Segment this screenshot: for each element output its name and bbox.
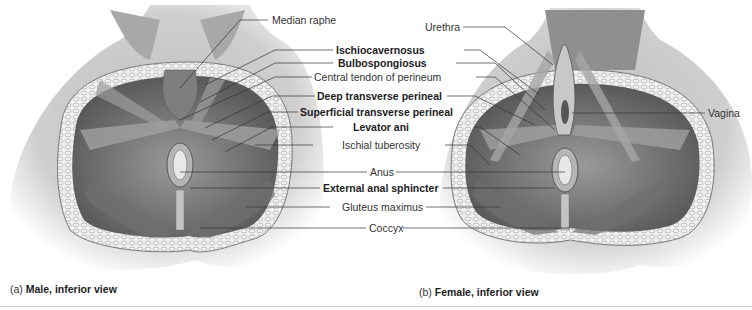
label-median-raphe: Median raphe (272, 14, 336, 26)
label-coccyx: Coccyx (369, 222, 403, 234)
caption-female-title: Female, inferior view (435, 286, 539, 298)
bottom-divider (0, 306, 752, 307)
label-central-tendon: Central tendon of perineum (314, 71, 441, 83)
caption-female: (b) Female, inferior view (419, 286, 539, 298)
label-levator-ani: Levator ani (353, 121, 409, 133)
label-vagina: Vagina (708, 107, 740, 119)
label-superficial-transverse-perineal: Superficial transverse perineal (300, 106, 453, 118)
caption-female-prefix: (b) (419, 286, 432, 298)
caption-male-prefix: (a) (10, 283, 23, 295)
label-anus: Anus (370, 166, 394, 178)
male-perineum (10, 5, 324, 270)
label-deep-transverse-perineal: Deep transverse perineal (317, 90, 442, 102)
caption-male: (a) Male, inferior view (10, 283, 117, 295)
label-bulbospongiosus: Bulbospongiosus (338, 57, 427, 69)
caption-male-title: Male, inferior view (26, 283, 117, 295)
label-gluteus-maximus: Gluteus maximus (342, 201, 423, 213)
label-ischiocavernosus: Ischiocavernosus (336, 44, 425, 56)
label-urethra: Urethra (425, 21, 460, 33)
label-ischial-tuberosity: Ischial tuberosity (342, 139, 420, 151)
label-external-anal-sphincter: External anal sphincter (323, 182, 439, 194)
perineum-figure: Median raphe Urethra Ischiocavernosus Bu… (0, 0, 752, 310)
female-perineum (440, 8, 752, 274)
